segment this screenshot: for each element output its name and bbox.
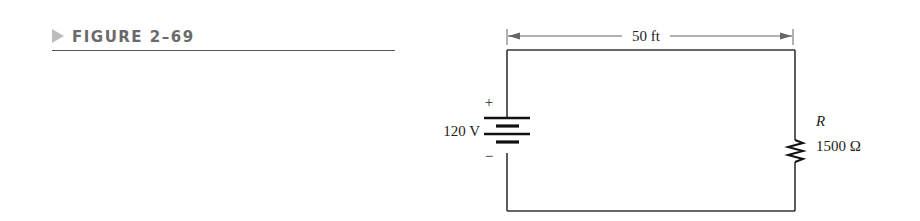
dimension-label: 50 ft: [632, 28, 661, 44]
arrow-left-icon: [508, 33, 520, 40]
wires: [507, 50, 795, 211]
negative-terminal-label: −: [485, 148, 493, 164]
voltage-label: 120 V: [443, 123, 480, 139]
positive-terminal-label: +: [485, 94, 493, 110]
circuit-diagram: 50 ft + − 120 V R 1500 Ω: [0, 0, 920, 221]
resistor-value-label: 1500 Ω: [816, 138, 861, 154]
arrow-right-icon: [780, 33, 792, 40]
battery-icon: [484, 118, 530, 142]
resistor-name-label: R: [815, 113, 825, 129]
resistor-icon: [788, 140, 803, 162]
